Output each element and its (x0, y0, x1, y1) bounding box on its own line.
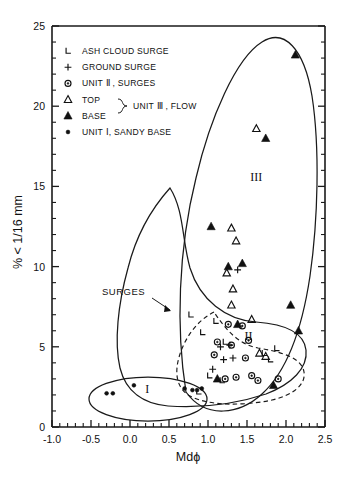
data-point (208, 372, 213, 377)
data-point (232, 237, 239, 244)
legend-brace-label: UNIT Ⅲ , FLOW (133, 101, 197, 111)
data-point (209, 366, 216, 373)
surges-label: SURGES (102, 286, 145, 297)
data-point (234, 266, 241, 273)
data-point (191, 388, 195, 392)
series-3 (223, 125, 269, 360)
region-label-i: I (145, 382, 149, 396)
legend-item-label: TOP (82, 95, 100, 105)
x-ticklabel-group: -1.0-0.50.00.51.01.52.02.5 (43, 433, 332, 445)
legend-item-label: ASH CLOUD SURGE (82, 46, 169, 56)
data-point (238, 259, 246, 267)
data-point (228, 301, 235, 308)
data-point (207, 222, 215, 230)
data-point (249, 373, 255, 379)
y-ticklabel: 10 (33, 261, 45, 273)
data-point (242, 355, 248, 361)
data-point (105, 391, 109, 395)
data-point (223, 339, 228, 344)
data-point (111, 391, 115, 395)
x-ticklabel: 1.5 (240, 433, 255, 445)
data-point (211, 352, 217, 358)
x-ticklabel: -1.0 (43, 433, 61, 445)
y-ticklabel-group: 0510152025 (33, 20, 45, 433)
data-point (195, 388, 199, 392)
series-5 (105, 383, 204, 395)
data-point (255, 377, 261, 383)
legend-symbol-triangle-open (64, 96, 71, 103)
y-ticklabel: 25 (33, 20, 45, 32)
surges-leader-arrow (164, 305, 171, 312)
data-point (189, 312, 194, 317)
data-point (253, 125, 260, 132)
legend-item-label: GROUND SURGE (82, 62, 156, 72)
legend-symbol-ell-corner (66, 48, 71, 53)
envelope-surges (117, 188, 306, 407)
figure-canvas: -1.0-0.50.00.51.01.52.02.5 0510152025 Md… (0, 0, 348, 478)
data-point (132, 383, 136, 387)
legend-symbol-plus (65, 64, 72, 71)
envelope-group (89, 38, 317, 421)
y-ticklabel: 15 (33, 180, 45, 192)
data-point (225, 321, 231, 327)
legend-symbol-circle-dot (65, 80, 71, 86)
legend-item-label: UNIT Ⅱ , SURGES (82, 78, 156, 88)
envelope-unit-iii (180, 38, 317, 411)
legend-item-label: BASE (82, 111, 106, 121)
data-point (228, 224, 235, 231)
x-ticklabel: -0.5 (82, 433, 100, 445)
data-point (200, 387, 204, 391)
data-point (220, 356, 227, 363)
x-axis-title: Mdϕ (176, 450, 200, 464)
region-label-iii: III (250, 170, 262, 184)
data-point (287, 301, 295, 309)
data-point (183, 387, 187, 391)
data-point (214, 318, 219, 323)
legend-symbol-triangle-filled (64, 112, 72, 120)
legend-brace (118, 99, 127, 113)
data-point (294, 326, 302, 334)
y-ticklabel: 20 (33, 100, 45, 112)
region-label-group: IIIIII (145, 170, 262, 396)
x-ticklabel: 0.0 (123, 433, 138, 445)
data-point (222, 376, 228, 382)
data-point (262, 134, 270, 142)
y-ticklabel: 0 (39, 421, 45, 433)
data-point (275, 345, 280, 350)
x-ticklabel: 1.0 (201, 433, 216, 445)
data-point (201, 329, 206, 334)
x-ticklabel: 2.5 (318, 433, 333, 445)
y-axis-title: % < 1/16 mm (11, 195, 25, 269)
data-point (230, 355, 237, 362)
legend-item-label: UNIT Ⅰ, SANDY BASE (82, 127, 171, 137)
x-ticklabel: 2.0 (279, 433, 294, 445)
y-ticklabel: 5 (39, 341, 45, 353)
data-point (233, 374, 239, 380)
x-ticklabel: 0.5 (162, 433, 177, 445)
legend-symbol-dot (66, 130, 70, 134)
data-point (229, 285, 236, 292)
data-point (214, 339, 220, 345)
legend: UNIT Ⅲ , FLOW ASH CLOUD SURGEGROUND SURG… (64, 46, 197, 137)
x-tick-group (52, 420, 325, 427)
data-point (224, 262, 232, 270)
surges-annotation: SURGES (102, 286, 171, 312)
data-point (275, 376, 281, 382)
